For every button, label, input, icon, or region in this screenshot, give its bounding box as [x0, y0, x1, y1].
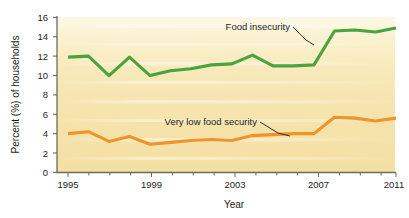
food-security-line-chart: 16 14 12 10 8 6 4 2 0	[0, 0, 409, 218]
y-tick-label-6: 6	[43, 109, 48, 120]
y-tick-label-14: 14	[37, 31, 48, 42]
y-tick-label-4: 4	[43, 128, 48, 139]
x-axis-tick-labels: 1995 1999 2003 2007 2011	[57, 179, 404, 190]
x-axis-title: Year	[224, 199, 245, 210]
y-tick-label-16: 16	[37, 12, 48, 23]
x-tick-label-2011: 2011	[384, 179, 404, 190]
y-axis-title: Percent (%) of households	[10, 36, 21, 154]
chart-figure: 16 14 12 10 8 6 4 2 0	[0, 0, 409, 218]
x-tick-label-1995: 1995	[57, 179, 78, 190]
y-tick-label-0: 0	[43, 167, 48, 178]
x-tick-label-2007: 2007	[308, 179, 329, 190]
very-low-food-security-annotation-label: Very low food security	[165, 116, 258, 127]
y-tick-label-2: 2	[43, 148, 48, 159]
y-tick-label-10: 10	[37, 70, 48, 81]
y-tick-label-8: 8	[43, 89, 48, 100]
plot-background	[57, 17, 395, 172]
y-axis-tick-labels: 16 14 12 10 8 6 4 2 0	[37, 12, 48, 178]
food-insecurity-annotation-label: Food insecurity	[226, 21, 291, 32]
x-axis-minor-ticks	[68, 173, 396, 178]
x-tick-label-1999: 1999	[141, 179, 162, 190]
x-tick-label-2003: 2003	[224, 179, 245, 190]
y-tick-label-12: 12	[37, 51, 48, 62]
